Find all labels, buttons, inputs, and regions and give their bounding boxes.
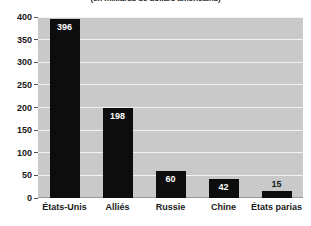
y-axis: 050100150200250300350400: [0, 17, 38, 198]
y-axis-tick: 200: [17, 103, 38, 113]
y-axis-tick-label: 300: [17, 57, 32, 67]
x-axis-tick-label: Chine: [197, 202, 250, 212]
bar-group: 15: [262, 17, 292, 198]
plot-area: 396198604215: [38, 17, 303, 198]
x-axis-tick-label: Alliés: [91, 202, 144, 212]
y-axis-tick-label: 250: [17, 80, 32, 90]
y-axis-tick-label: 400: [17, 12, 32, 22]
bar-chart-figure: (en milliards de dollars américains) 050…: [0, 0, 311, 226]
y-axis-tick-label: 100: [17, 148, 32, 158]
y-axis-tick: 400: [17, 12, 38, 22]
bar-group: 42: [209, 17, 239, 198]
y-axis-tick-label: 200: [17, 103, 32, 113]
y-axis-tick-label: 350: [17, 35, 32, 45]
y-axis-tick: 250: [17, 80, 38, 90]
x-axis-tick-label: États parias: [250, 202, 303, 212]
y-axis-tick: 0: [27, 193, 38, 203]
y-axis-tick-label: 50: [22, 170, 32, 180]
bar-group: 396: [50, 17, 80, 198]
y-axis-tick: 150: [17, 125, 38, 135]
x-axis-tick-label: Russie: [144, 202, 197, 212]
y-axis-tick: 300: [17, 57, 38, 67]
bar-value-label: 198: [103, 111, 133, 121]
y-axis-tick-label: 150: [17, 125, 32, 135]
bar-value-label: 60: [156, 174, 186, 184]
bar: 42: [209, 179, 239, 198]
chart-subtitle: (en milliards de dollars américains): [0, 0, 311, 3]
bar-group: 198: [103, 17, 133, 198]
bar-value-label: 396: [50, 22, 80, 32]
y-axis-tick: 350: [17, 35, 38, 45]
y-axis-tick: 100: [17, 148, 38, 158]
bar-group: 60: [156, 17, 186, 198]
bar-value-label: 42: [209, 182, 239, 192]
y-axis-tick-label: 0: [27, 193, 32, 203]
bar: [262, 191, 292, 198]
bar: 60: [156, 171, 186, 198]
bar-value-label: 15: [262, 179, 292, 189]
bar: 198: [103, 108, 133, 198]
y-axis-tick: 50: [22, 170, 38, 180]
x-axis: États-UnisAlliésRussieChineÉtats parias: [38, 200, 303, 220]
bar: 396: [50, 19, 80, 198]
x-axis-tick-label: États-Unis: [38, 202, 91, 212]
